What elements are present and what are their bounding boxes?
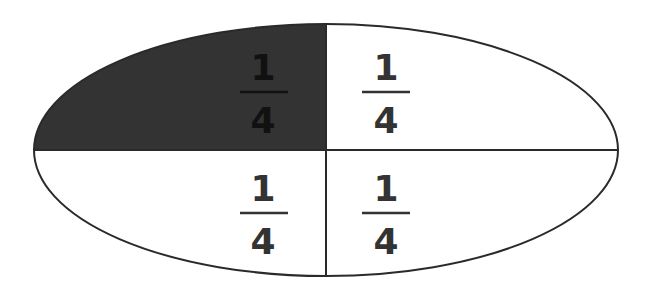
- denominator: 4: [373, 100, 398, 141]
- numerator: 1: [250, 47, 275, 88]
- numerator: 1: [373, 47, 398, 88]
- fraction-ellipse-diagram: 1 4 1 4 1 4 1 4: [0, 0, 656, 283]
- numerator: 1: [250, 168, 275, 209]
- denominator: 4: [250, 221, 275, 262]
- denominator: 4: [373, 221, 398, 262]
- numerator: 1: [373, 168, 398, 209]
- denominator: 4: [250, 100, 275, 141]
